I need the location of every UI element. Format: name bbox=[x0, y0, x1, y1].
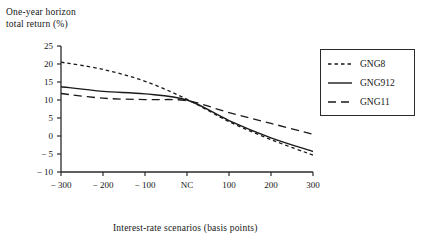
x-tick-label: 300 bbox=[306, 180, 320, 190]
chart-figure: One-year horizon total return (%) 252015… bbox=[0, 0, 421, 246]
legend-item-2: GNG11 bbox=[328, 94, 390, 110]
x-tick-label: − 200 bbox=[93, 180, 114, 190]
y-tick-label: − 10 bbox=[37, 167, 54, 177]
x-tick-label: − 300 bbox=[51, 180, 72, 190]
x-tick-label: 100 bbox=[222, 180, 236, 190]
y-tick-label: 25 bbox=[44, 41, 54, 51]
y-tick-label: − 5 bbox=[41, 149, 53, 159]
legend-item-0: GNG8 bbox=[328, 56, 385, 72]
y-tick-label: 10 bbox=[44, 95, 54, 105]
chart-legend: GNG8 GNG912 GNG11 bbox=[320, 49, 415, 116]
y-tick-label: 0 bbox=[49, 131, 54, 141]
y-tick-label: 15 bbox=[44, 77, 54, 87]
y-axis-ticks: 2520151050− 5− 10 bbox=[37, 41, 61, 177]
legend-swatch-short-dash bbox=[328, 59, 352, 69]
legend-swatch-long-dash bbox=[328, 97, 352, 107]
legend-label-1: GNG912 bbox=[360, 78, 395, 89]
x-tick-label: − 100 bbox=[135, 180, 156, 190]
y-tick-label: 5 bbox=[49, 113, 54, 123]
x-axis-title: Interest-rate scenarios (basis points) bbox=[113, 222, 258, 234]
x-axis-ticks: − 300− 200− 100NC100200300 bbox=[51, 172, 321, 190]
y-tick-label: 20 bbox=[44, 59, 54, 69]
legend-swatch-solid bbox=[328, 78, 352, 88]
legend-item-1: GNG912 bbox=[328, 75, 395, 91]
legend-label-0: GNG8 bbox=[360, 59, 385, 70]
legend-label-2: GNG11 bbox=[360, 97, 390, 108]
x-tick-label: 200 bbox=[264, 180, 278, 190]
series-line-GNG8 bbox=[61, 62, 313, 155]
axes bbox=[61, 46, 313, 172]
data-series-layer bbox=[61, 62, 313, 155]
x-tick-label: NC bbox=[181, 180, 194, 190]
plot-area: 2520151050− 5− 10 − 300− 200− 100NC10020… bbox=[0, 0, 421, 246]
